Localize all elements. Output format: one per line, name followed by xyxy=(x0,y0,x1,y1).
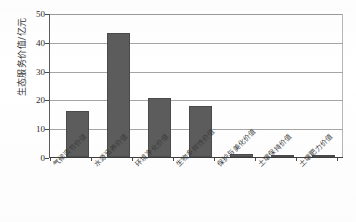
gridline-40 xyxy=(50,43,343,44)
y-axis-title: 生态服务价值/亿元 xyxy=(17,0,27,127)
y-tick-label-10: 10 xyxy=(15,125,45,134)
plot-top-border xyxy=(50,14,343,15)
gridline-20 xyxy=(50,100,343,101)
plot-area xyxy=(49,14,343,158)
y-tick-mark-0 xyxy=(45,158,49,159)
y-tick-label-50: 50 xyxy=(15,10,45,19)
x-tick-mark-3 xyxy=(173,158,174,161)
y-tick-label-20: 20 xyxy=(15,96,45,105)
x-tick-mark-7 xyxy=(337,158,338,161)
x-tick-mark-5 xyxy=(255,158,256,161)
y-tick-label-0: 0 xyxy=(15,154,45,163)
y-tick-label-40: 40 xyxy=(15,39,45,48)
x-tick-mark-0 xyxy=(50,158,51,161)
bar-chart: 生态服务价值/亿元 50 40 30 20 10 0 气 xyxy=(0,0,356,222)
x-tick-mark-6 xyxy=(296,158,297,161)
x-tick-mark-2 xyxy=(132,158,133,161)
gridline-30 xyxy=(50,72,343,73)
y-tick-label-30: 30 xyxy=(15,68,45,77)
x-tick-mark-4 xyxy=(214,158,215,161)
x-tick-mark-1 xyxy=(91,158,92,161)
plot-right-border xyxy=(342,14,343,157)
